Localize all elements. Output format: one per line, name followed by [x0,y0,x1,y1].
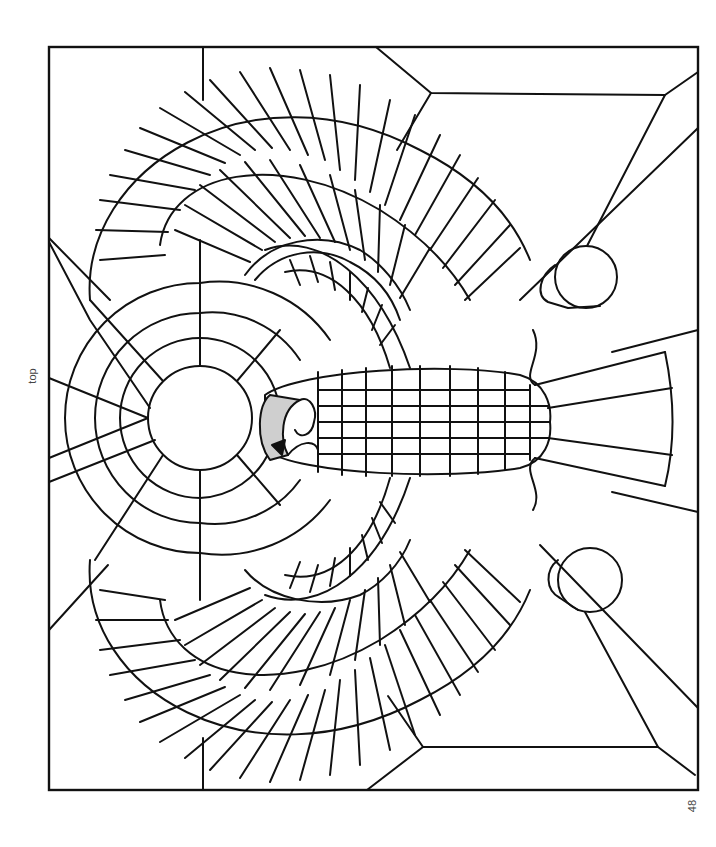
orientation-label: top [26,368,38,383]
upper-wing [90,68,530,320]
tail-fan [530,330,672,510]
stained-glass-artwork [0,0,716,847]
sun-disk [49,240,330,600]
bird-body [265,366,550,476]
page-number: 48 [686,800,698,812]
bird-head [260,395,318,460]
